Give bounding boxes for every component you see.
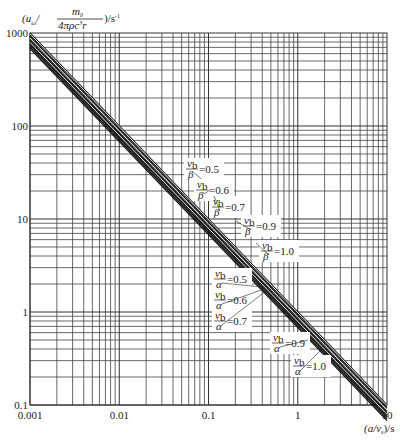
svg-text:=0.5: =0.5 bbox=[199, 163, 219, 175]
svg-text:=0.5: =0.5 bbox=[227, 273, 247, 285]
y-tick-label: 1000 bbox=[6, 27, 29, 39]
svg-text:α: α bbox=[216, 320, 222, 332]
series-annotation: vbα=0.5 bbox=[212, 267, 252, 290]
svg-text:m0: m0 bbox=[72, 5, 83, 18]
y-tick-label: 10 bbox=[17, 213, 29, 225]
svg-text:=0.7: =0.7 bbox=[225, 201, 245, 213]
series-annotation: vbα=1.0 bbox=[291, 354, 331, 377]
series-annotation: vbβ=0.5 bbox=[184, 157, 224, 180]
series-annotation: vbα=0.6 bbox=[212, 288, 252, 311]
x-axis-label: (a/vs)/s bbox=[364, 422, 394, 435]
y-tick-label: 1 bbox=[23, 306, 29, 318]
x-tick-label: 0.01 bbox=[110, 409, 129, 421]
svg-text:β: β bbox=[187, 168, 194, 180]
svg-text:(uω/: (uω/ bbox=[22, 12, 40, 27]
series-annotation: vbβ=0.9 bbox=[241, 214, 281, 237]
svg-text:=1.0: =1.0 bbox=[274, 245, 294, 257]
log-log-chart: vbβ=0.5vbβ=0.6vbβ=0.7vbβ=0.9vbβ=1.0vbα=0… bbox=[0, 0, 400, 442]
svg-text:4πρc3r: 4πρc3r bbox=[58, 19, 87, 31]
y-axis-ticks: 10001001010.1 bbox=[6, 27, 29, 411]
x-axis-ticks: 0.0010.010.1110 bbox=[18, 409, 393, 421]
svg-text:β: β bbox=[197, 189, 204, 201]
x-tick-label: 1 bbox=[295, 409, 301, 421]
svg-text:)/s-1: )/s-1 bbox=[104, 12, 120, 25]
x-tick-label: 10 bbox=[382, 409, 394, 421]
series-annotation: vbβ=1.0 bbox=[259, 239, 299, 262]
x-tick-label: 0.1 bbox=[202, 409, 216, 421]
series-annotation: vbα=0.9 bbox=[270, 331, 310, 354]
svg-text:α: α bbox=[295, 365, 301, 377]
y-axis-label: (uω/ m0 4πρc3r )/s-1 bbox=[22, 5, 120, 31]
svg-text:=0.7: =0.7 bbox=[227, 315, 247, 327]
svg-text:(a/vs)/s: (a/vs)/s bbox=[364, 422, 394, 435]
y-tick-label: 100 bbox=[12, 120, 29, 132]
svg-text:=0.9: =0.9 bbox=[256, 220, 276, 232]
svg-text:α: α bbox=[274, 342, 280, 354]
x-tick-label: 0.001 bbox=[18, 409, 43, 421]
series-annotation: vbα=0.7 bbox=[212, 309, 252, 332]
annotations: vbβ=0.5vbβ=0.6vbβ=0.7vbβ=0.9vbβ=1.0vbα=0… bbox=[184, 157, 331, 377]
svg-text:β: β bbox=[244, 225, 251, 237]
